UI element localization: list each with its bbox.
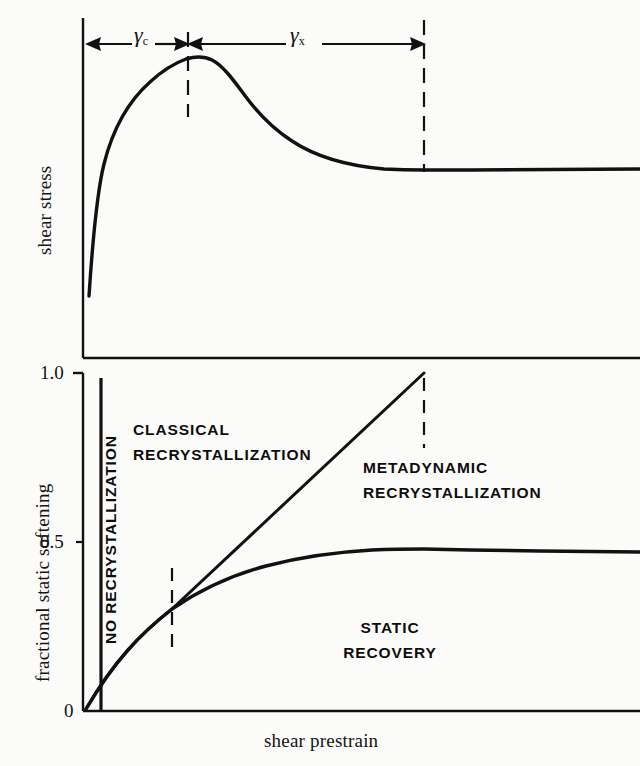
bottom-panel-x-axis-label: shear prestrain <box>264 730 378 752</box>
top-panel-y-axis-label: shear stress <box>34 166 56 255</box>
top-panel <box>83 18 640 358</box>
region-label-metadynamic-recrystallization: METADYNAMICRECRYSTALLIZATION <box>363 455 542 505</box>
y-tick-label-1-0: 1.0 <box>40 362 64 384</box>
static-recovery-line-1: STATIC <box>360 619 419 636</box>
region-label-no-recrystallization: NO RECRYSTALLIZATION <box>98 435 123 644</box>
static-recovery-line-2: RECOVERY <box>343 644 437 661</box>
gamma-c-label: γc <box>134 22 148 48</box>
gamma-x-label: γx <box>290 22 305 48</box>
gamma-x-glyph: γ <box>290 22 299 47</box>
metadynamic-line-2: RECRYSTALLIZATION <box>363 484 542 501</box>
figure-page: shear stress γc γx fractional static sof… <box>0 0 640 766</box>
gamma-c-subscript: c <box>143 34 148 48</box>
region-label-static-recovery: STATICRECOVERY <box>330 615 450 665</box>
gamma-x-dimension <box>187 37 426 51</box>
bottom-panel-y-axis-label: fractional static softening <box>32 484 54 683</box>
figure-canvas <box>0 0 640 766</box>
classical-line-1: CLASSICAL <box>133 421 230 438</box>
gamma-c-glyph: γ <box>134 22 143 47</box>
metadynamic-line-1: METADYNAMIC <box>363 459 488 476</box>
region-label-classical-recrystallization: CLASSICALRECRYSTALLIZATION <box>133 417 312 467</box>
flow-stress-curve <box>89 57 640 296</box>
y-tick-label-0-5: 0.5 <box>40 531 64 553</box>
gamma-x-subscript: x <box>299 34 305 48</box>
classical-line-2: RECRYSTALLIZATION <box>133 446 312 463</box>
y-tick-label-0: 0 <box>64 700 74 722</box>
